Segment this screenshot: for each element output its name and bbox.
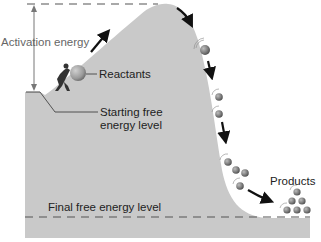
final-level-label: Final free energy level [48,201,161,214]
products-label: Products [270,175,315,188]
downhill-arrow-2 [208,61,211,74]
arrow-down-icon [31,84,37,91]
arrow-up-icon [31,5,37,12]
downhill-arrow-4 [248,190,268,200]
starting-level-label-line2: energy level [100,119,162,132]
downhill-arrow-3 [222,122,225,138]
starting-level-label-line1: Starting free [100,106,163,119]
reactants-boulder [70,65,86,81]
reactants-label: Reactants [99,68,151,81]
activation-energy-label: Activation energy [1,36,89,49]
products-pile [280,185,311,214]
